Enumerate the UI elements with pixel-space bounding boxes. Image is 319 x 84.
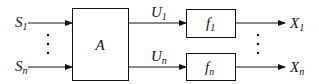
signal-label-un: Un — [151, 48, 167, 66]
ellipsis-dot-icon — [257, 34, 259, 36]
signal-label-u1: U1 — [151, 4, 167, 22]
ellipsis-dot-icon — [257, 52, 259, 54]
ellipsis-dot-icon — [47, 43, 49, 45]
input-label-s1: S1 — [15, 14, 28, 32]
output-label-x1: X1 — [289, 15, 304, 33]
ellipsis-dot-icon — [47, 34, 49, 36]
ellipsis-dot-icon — [47, 52, 49, 54]
input-label-sn: Sn — [15, 58, 28, 76]
block-a-label: A — [94, 37, 105, 53]
ellipsis-dot-icon — [257, 43, 259, 45]
block-diagram: S1 Sn A U1 Un f1 fn X1 Xn — [0, 0, 319, 84]
output-label-xn: Xn — [289, 59, 304, 77]
